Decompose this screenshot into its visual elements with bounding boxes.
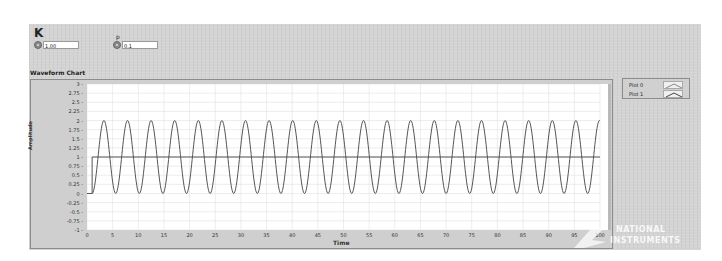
y-tick-label: 2.25 - <box>53 108 83 114</box>
x-tick-label: 65 <box>410 232 430 238</box>
y-tick-label: -0.75 - <box>53 218 83 224</box>
increment-decrement-icon[interactable] <box>34 41 42 49</box>
plot-area <box>87 84 608 230</box>
x-tick-label: 85 <box>513 232 533 238</box>
k-value-field[interactable]: 1.00 <box>43 41 79 49</box>
x-tick-label: 45 <box>308 232 328 238</box>
x-tick-label: 50 <box>334 232 354 238</box>
y-tick-label: -0.5 - <box>53 209 83 215</box>
k-numeric-control[interactable]: 1.00 <box>34 40 79 49</box>
x-tick-label: 55 <box>359 232 379 238</box>
y-tick-label: 0.25 - <box>53 181 83 187</box>
p-value-field[interactable]: 0.1 <box>122 41 158 49</box>
ni-logo-icon <box>570 222 610 250</box>
p-numeric-control[interactable]: 0.1 <box>113 40 158 49</box>
plot-traces <box>87 84 608 230</box>
legend-label: Plot 1 <box>625 91 659 97</box>
x-tick-label: 20 <box>180 232 200 238</box>
x-tick-label: 0 <box>77 232 97 238</box>
y-tick-label: 2 - <box>53 118 83 124</box>
y-tick-label: 0.75 - <box>53 163 83 169</box>
x-tick-label: 80 <box>487 232 507 238</box>
ni-watermark: NATIONAL INSTRUMENTS <box>570 222 700 250</box>
y-tick-label: -0.25 - <box>53 200 83 206</box>
x-tick-label: 40 <box>282 232 302 238</box>
x-tick-label: 90 <box>539 232 559 238</box>
y-tick-label: 2.75 - <box>53 90 83 96</box>
x-tick-label: 25 <box>205 232 225 238</box>
watermark-line-2: INSTRUMENTS <box>610 236 680 245</box>
x-tick-label: 5 <box>103 232 123 238</box>
line-sample-icon[interactable] <box>663 81 683 89</box>
y-axis-label: Amplitude <box>27 121 33 150</box>
increment-decrement-icon[interactable] <box>113 41 121 49</box>
x-tick-label: 10 <box>128 232 148 238</box>
x-tick-label: 30 <box>231 232 251 238</box>
plot-legend[interactable]: Plot 0 Plot 1 <box>622 78 690 99</box>
y-tick-label: 0 - <box>53 191 83 197</box>
y-tick-label: 1 - <box>53 154 83 160</box>
x-tick-label: 35 <box>257 232 277 238</box>
x-tick-label: 15 <box>154 232 174 238</box>
y-tick-label: 1.75 - <box>53 127 83 133</box>
y-tick-label: 0.5 - <box>53 172 83 178</box>
y-tick-label: 3 - <box>53 81 83 87</box>
legend-item-plot-0[interactable]: Plot 0 <box>625 80 683 89</box>
x-tick-label: 70 <box>436 232 456 238</box>
x-axis-label: Time <box>333 239 349 246</box>
k-control-label: K <box>34 26 43 40</box>
legend-label: Plot 0 <box>625 82 659 88</box>
p-control-label: p <box>116 33 120 40</box>
y-tick-label: 1.25 - <box>53 145 83 151</box>
y-tick-label: 2.5 - <box>53 99 83 105</box>
legend-item-plot-1[interactable]: Plot 1 <box>625 89 683 98</box>
watermark-line-1: NATIONAL <box>616 225 665 234</box>
line-sample-icon[interactable] <box>663 90 683 98</box>
x-tick-label: 60 <box>385 232 405 238</box>
y-tick-label: 1.5 - <box>53 136 83 142</box>
x-tick-label: 75 <box>462 232 482 238</box>
chart-label: Waveform Chart <box>30 69 85 76</box>
